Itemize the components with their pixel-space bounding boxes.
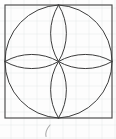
figure-canvas xyxy=(0,0,116,139)
geometry-figure xyxy=(0,0,116,139)
